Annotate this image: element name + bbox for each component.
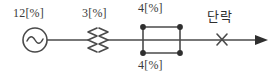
arrow-head (255, 35, 268, 45)
fault-label: 단락 (207, 6, 232, 25)
transformer-impedance-label: 3[%] (82, 6, 107, 21)
junction-dot-top-left (140, 24, 146, 30)
transformer-symbol (88, 28, 108, 52)
top-line-impedance-label: 4[%] (138, 1, 163, 16)
ac-source-symbol (23, 28, 47, 52)
junction-dot-bottom-right (177, 50, 183, 56)
bottom-line-impedance-label: 4[%] (138, 58, 163, 73)
source-impedance-label: 12[%] (13, 6, 44, 21)
flow-arrow-icon (255, 35, 268, 45)
junction-dot-top-right (177, 24, 183, 30)
junction-dot-bottom-left (140, 50, 146, 56)
transformer-coil-right-icon (99, 28, 108, 52)
transformer-coil-left-icon (88, 28, 97, 52)
power-system-diagram: 12[%] 3[%] 4[%] 4[%] 단락 (0, 0, 274, 81)
